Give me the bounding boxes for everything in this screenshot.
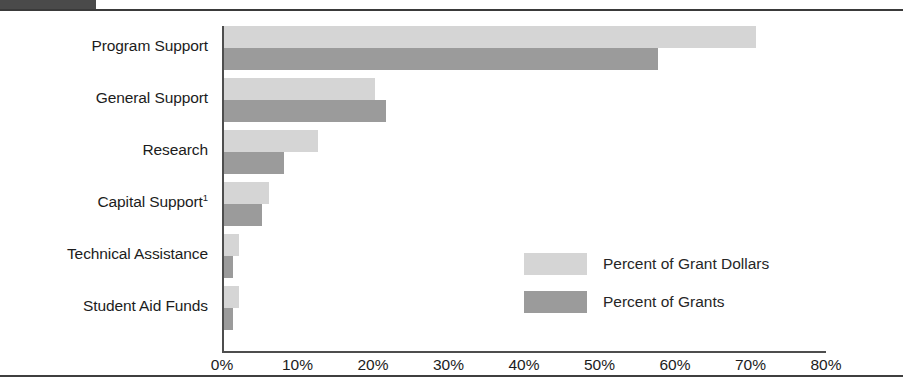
chart-category-row: Research [0,130,903,182]
chart-category-row: Program Support [0,26,903,78]
chart-legend: Percent of Grant DollarsPercent of Grant… [524,249,854,325]
category-label: Capital Support1 [0,193,208,211]
bar-dollars [224,234,239,256]
bar-dollars [224,182,269,204]
bar-grants [224,204,262,226]
top-divider-rule [0,9,903,11]
x-axis-tick-label: 60% [640,356,710,374]
legend-label: Percent of Grant Dollars [603,253,769,275]
x-axis-tick-label: 0% [187,356,257,374]
category-label: Technical Assistance [0,245,208,263]
x-axis-tick-label: 80% [791,356,861,374]
x-axis-tick-label: 10% [263,356,333,374]
legend-swatch-dollars [524,253,587,275]
bar-grants [224,152,284,174]
bar-dollars [224,130,318,152]
x-axis-tick-label: 70% [716,356,786,374]
legend-swatch-grants [524,291,587,313]
x-axis-tick-label: 20% [338,356,408,374]
bar-grants [224,256,233,278]
footnote-marker: 1 [203,192,208,203]
bar-dollars [224,26,756,48]
bar-dollars [224,286,239,308]
category-label: Program Support [0,37,208,55]
x-axis-tick-label: 30% [414,356,484,374]
category-label: Research [0,141,208,159]
bar-grants [224,100,386,122]
bottom-divider-rule [0,375,903,377]
bar-grants [224,48,658,70]
legend-item: Percent of Grants [524,287,854,325]
chart-category-row: Capital Support1 [0,182,903,234]
bar-dollars [224,78,375,100]
legend-label: Percent of Grants [603,291,724,313]
x-axis-tick-label: 40% [489,356,559,374]
bar-grants [224,308,233,330]
x-axis-tick-label: 50% [565,356,635,374]
category-label: Student Aid Funds [0,297,208,315]
x-axis-tick-labels: 0%10%20%30%40%50%60%70%80% [0,356,903,382]
chart-category-row: General Support [0,78,903,130]
category-label: General Support [0,89,208,107]
horizontal-bar-chart: Program SupportGeneral SupportResearchCa… [0,14,903,364]
legend-item: Percent of Grant Dollars [524,249,854,287]
chart-page: Program SupportGeneral SupportResearchCa… [0,0,903,383]
x-axis-line [222,351,826,353]
